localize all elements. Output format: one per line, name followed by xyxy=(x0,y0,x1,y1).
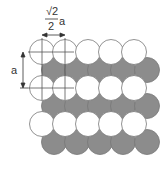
white-sphere xyxy=(53,112,78,137)
width-label-numerator: √2 xyxy=(46,5,58,17)
sphere-packing-diagram: √2 2 a a xyxy=(0,0,168,169)
white-sphere xyxy=(30,112,55,137)
white-sphere xyxy=(99,76,124,101)
circle-layer xyxy=(30,40,160,155)
white-sphere xyxy=(122,76,147,101)
width-dimension xyxy=(42,33,65,37)
white-sphere xyxy=(99,40,124,65)
width-label-denominator: 2 xyxy=(48,20,54,32)
white-sphere xyxy=(76,76,101,101)
white-sphere xyxy=(76,40,101,65)
white-sphere xyxy=(76,112,101,137)
height-label: a xyxy=(11,64,18,76)
white-sphere xyxy=(122,40,147,65)
width-label-variable: a xyxy=(59,15,66,27)
height-dimension xyxy=(20,52,28,88)
white-sphere xyxy=(99,112,124,137)
white-sphere xyxy=(122,112,147,137)
